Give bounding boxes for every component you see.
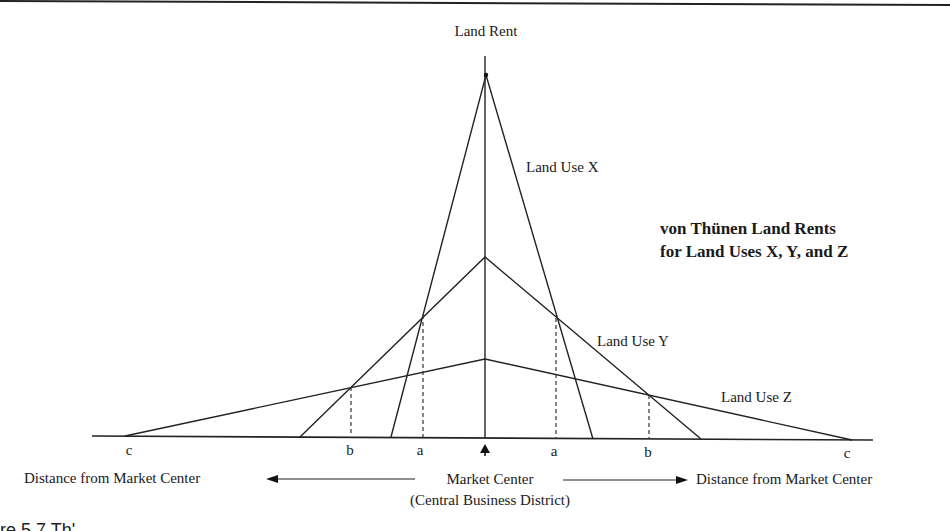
x-axis-center-label: Market Center [446, 472, 533, 487]
mark-right-b: b [644, 445, 652, 460]
x-axis-baseline [92, 436, 873, 440]
market-center-arrow-icon [480, 444, 490, 453]
curve-land-use-x [391, 75, 593, 439]
mark-left-c: c [126, 443, 133, 458]
right-arrowhead-icon [676, 476, 688, 484]
left-arrowhead-icon [266, 475, 278, 483]
top-border [0, 1, 950, 5]
mark-right-c: c [844, 446, 851, 461]
apex-x-dot [484, 73, 488, 77]
label-land-use-x: Land Use X [526, 160, 598, 175]
x-axis-center-sublabel: (Central Business District) [410, 493, 570, 508]
diagram-title-line-2: for Land Uses X, Y, and Z [660, 241, 848, 263]
mark-left-b: b [346, 443, 354, 458]
mark-left-a: a [417, 443, 424, 458]
y-axis-label: Land Rent [455, 24, 518, 39]
diagram-title-line-1: von Thünen Land Rents [660, 218, 836, 240]
x-axis-left-label: Distance from Market Center [24, 471, 200, 486]
label-land-use-y: Land Use Y [597, 334, 669, 349]
mark-right-a: a [551, 444, 558, 459]
von-thunen-diagram [0, 0, 950, 531]
figure-caption-text: re 5.7 Th' [0, 519, 950, 531]
x-axis-right-label: Distance from Market Center [696, 472, 872, 487]
label-land-use-z: Land Use Z [721, 390, 792, 405]
figure-caption-clipped: re 5.7 Th' [0, 518, 950, 531]
